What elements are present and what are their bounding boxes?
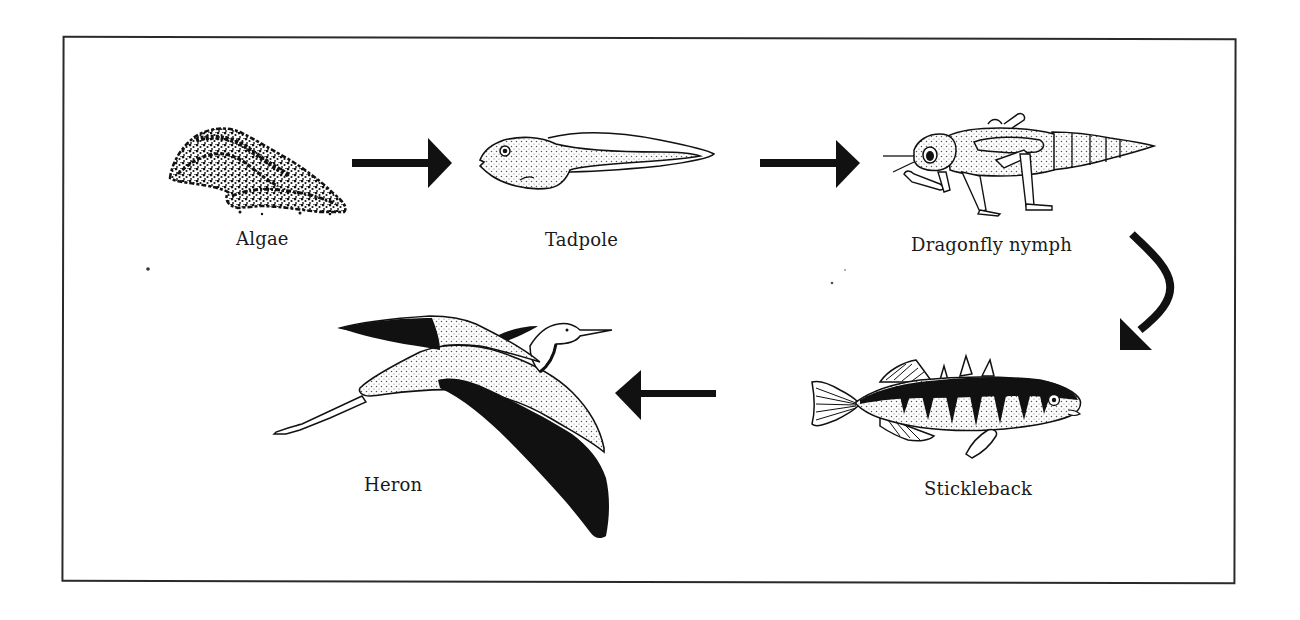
label-tadpole: Tadpole [545, 229, 618, 250]
curved-arrow-icon [1120, 234, 1170, 350]
arrow-right-icon [352, 138, 452, 188]
label-algae: Algae [236, 228, 289, 249]
arrow-right-icon [760, 140, 860, 188]
algae-icon [170, 129, 346, 216]
label-dragonfly-nymph: Dragonfly nymph [911, 234, 1072, 255]
stickleback-icon [812, 356, 1081, 458]
food-chain-art [0, 0, 1300, 620]
label-stickleback: Stickleback [924, 478, 1032, 499]
speck [844, 269, 846, 271]
heron-icon [274, 316, 612, 538]
arrow-left-icon [615, 370, 716, 420]
label-heron: Heron [364, 474, 422, 495]
dragonfly-nymph-icon [883, 113, 1154, 216]
speck [831, 282, 834, 285]
speck [146, 267, 150, 271]
tadpole-icon [480, 133, 714, 189]
